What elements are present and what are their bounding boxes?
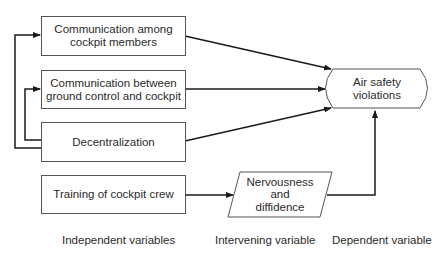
feedback-arrow-inner [25, 89, 41, 140]
arrow-comm-cockpit [185, 36, 331, 69]
label-dependent-variable: Dependent variable [332, 234, 432, 246]
box-line1: Training of cockpit crew [53, 188, 173, 201]
box-communication-among-cockpit: Communication among cockpit members [41, 16, 186, 56]
nervousness-label: Nervousness and diffidence [232, 172, 328, 217]
box-decentralization: Decentralization [41, 122, 186, 162]
box-training-cockpit-crew: Training of cockpit crew [41, 175, 186, 214]
air-safety-line1: Air safety [353, 76, 401, 89]
feedback-arrow-outer [15, 35, 41, 148]
arrow-nervousness [327, 111, 375, 195]
air-safety-label: Air safety violations [333, 69, 421, 108]
box-communication-ground-cockpit: Communication between ground control and… [41, 70, 186, 109]
air-safety-line2: violations [353, 89, 401, 102]
nervousness-line1: Nervousness [246, 176, 313, 189]
box-line2: ground control and cockpit [46, 90, 181, 103]
arrow-decentralization [185, 108, 331, 141]
box-line2: cockpit members [54, 36, 172, 49]
box-line1: Decentralization [72, 136, 154, 149]
label-independent-variables: Independent variables [62, 234, 175, 246]
box-line1: Communication among [54, 23, 172, 36]
box-line1: Communication between [46, 77, 181, 90]
nervousness-line3: diffidence [246, 201, 313, 214]
label-intervening-variable: Intervening variable [215, 234, 315, 246]
nervousness-line2: and [246, 188, 313, 201]
